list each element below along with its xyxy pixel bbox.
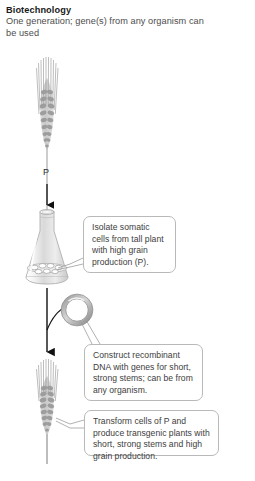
callout-pointer-transform [56, 418, 84, 428]
callout-construct-dna: Construct recombinant DNA with genes for… [84, 344, 203, 401]
recombinant-dna-plasmid [61, 294, 93, 326]
arrow-flask-to-transgenic-plant [47, 288, 66, 352]
erlenmeyer-flask-with-cells [26, 210, 68, 284]
callout-transform-cells: Transform cells of P and produce transge… [84, 410, 219, 456]
short-transgenic-wheat-plant [37, 359, 59, 464]
parent-plant-label: P [43, 167, 49, 177]
callout-isolate-cells: Isolate somatic cells from tall plant wi… [83, 216, 176, 273]
biotechnology-figure-page: Biotechnology One generation; gene(s) fr… [0, 0, 255, 481]
